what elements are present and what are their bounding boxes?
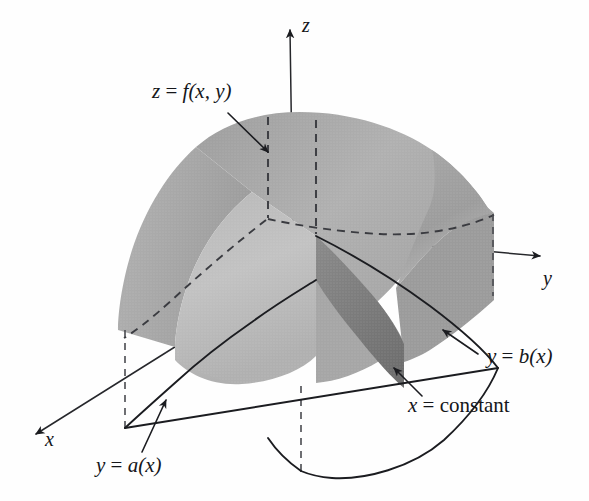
surface-texture-overlay (118, 112, 494, 392)
surface-diagram: z = f(x, y) y = b(x) x = constant y = a(… (0, 0, 589, 501)
label-lower-boundary: y = a(x) (94, 453, 161, 477)
axis-label-y: y (541, 267, 552, 290)
axis-label-x: x (44, 428, 54, 450)
base-front-edge (268, 438, 301, 471)
figure-container: z = f(x, y) y = b(x) x = constant y = a(… (0, 0, 589, 501)
label-slice: x = constant (407, 393, 510, 417)
axis-label-z: z (301, 14, 310, 36)
label-surface: z = f(x, y) (151, 79, 232, 103)
leader-y-a (142, 400, 166, 452)
surface-group (118, 112, 494, 392)
label-upper-boundary: y = b(x) (485, 344, 552, 368)
